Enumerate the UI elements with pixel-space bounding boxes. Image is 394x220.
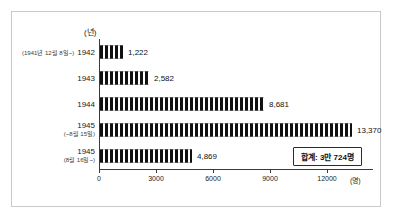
category-note-1942: (1941년 12월 8일~)	[22, 50, 74, 56]
category-note-1945-after: (8월 16일~)	[64, 157, 95, 165]
category-label-1945-after: 1945 (8월 16일~)	[64, 147, 95, 165]
bar-1944[interactable]	[100, 98, 264, 111]
bar-value-1945-after: 4,869	[197, 152, 217, 161]
bar-row: 1944 8,681	[99, 91, 361, 117]
bar-1942[interactable]	[100, 46, 123, 59]
x-tick-6000	[213, 169, 214, 173]
x-tick-9000	[270, 169, 271, 173]
bar-value-1942: 1,222	[128, 48, 148, 57]
x-tick-0	[99, 169, 100, 173]
total-badge: 합계: 3만 724명	[293, 147, 362, 166]
bar-row: 1943 2,582	[99, 65, 361, 91]
x-tick-3000	[156, 169, 157, 173]
category-note-1945-before: (~8월 15일)	[64, 131, 95, 139]
x-tick-12000	[327, 169, 328, 173]
bar-row: 1945 (~8월 15일) 13,370	[99, 117, 361, 143]
y-axis-unit-label: (년)	[84, 26, 96, 37]
x-tick-label-3000: 3000	[148, 175, 164, 182]
bar-value-1943: 2,582	[154, 74, 174, 83]
bar-value-1944: 8,681	[269, 100, 289, 109]
bar-1945-before[interactable]	[100, 124, 352, 137]
category-label-1942: (1941년 12월 8일~)1942	[22, 48, 95, 57]
category-label-1944: 1944	[77, 100, 95, 109]
category-year-1944: 1944	[77, 100, 95, 109]
bar-1943[interactable]	[100, 72, 149, 85]
category-year-1945-before: 1945	[64, 121, 95, 131]
x-tick-label-12000: 12000	[317, 175, 336, 182]
x-tick-label-0: 0	[97, 175, 101, 182]
category-label-1945-before: 1945 (~8월 15일)	[64, 121, 95, 139]
x-tick-label-6000: 6000	[205, 175, 221, 182]
category-label-1943: 1943	[77, 74, 95, 83]
value-axis-line	[99, 169, 373, 170]
bar-1945-after[interactable]	[100, 150, 192, 163]
category-year-1945-after: 1945	[64, 147, 95, 157]
category-year-1943: 1943	[77, 74, 95, 83]
chart-figure: (년) (1941년 12월 8일~)1942 1,222 1943 2,582…	[11, 11, 381, 207]
x-tick-label-9000: 9000	[262, 175, 278, 182]
bar-row: (1941년 12월 8일~)1942 1,222	[99, 39, 361, 65]
bar-value-1945-before: 13,370	[357, 126, 381, 135]
category-year-1942: 1942	[77, 48, 95, 57]
x-axis-unit-label: (명)	[350, 175, 361, 185]
